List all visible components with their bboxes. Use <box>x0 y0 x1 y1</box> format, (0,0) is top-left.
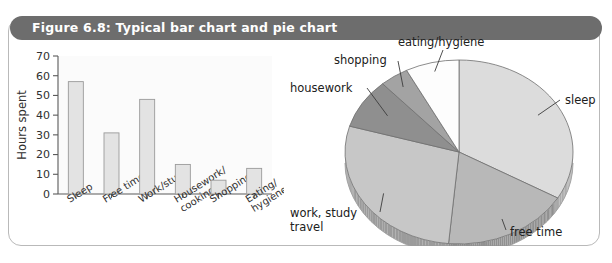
plot-background <box>58 56 272 194</box>
pie-slice-side <box>407 234 410 246</box>
pie-slice-label: shopping <box>334 53 387 67</box>
pie-slice-side <box>498 238 500 246</box>
pie-slice-label: work, studytravel <box>290 206 357 234</box>
pie-slice-side <box>547 210 548 222</box>
bar-chart: 010203040506070Hours spentSleepFree time… <box>14 46 284 246</box>
y-axis-tick-label: 50 <box>36 89 50 102</box>
pie-slice-side <box>551 205 552 217</box>
y-axis-tick-label: 60 <box>36 70 50 83</box>
pie-slice-side <box>416 237 419 246</box>
y-axis-tick-label: 40 <box>36 109 50 122</box>
pie-slice-side <box>404 233 407 245</box>
pie-chart: sleepfree timework, studytravelhousework… <box>288 30 606 246</box>
y-axis-tick-label: 70 <box>36 50 50 63</box>
y-axis-tick-label: 0 <box>43 188 50 201</box>
y-axis-tick-label: 30 <box>36 129 50 142</box>
pie-slice-side <box>542 214 543 226</box>
pie-slice-side <box>548 208 549 220</box>
pie-slice-side <box>506 235 508 246</box>
pie-slice-side <box>500 237 502 246</box>
pie-slice-side <box>491 240 493 246</box>
bar <box>68 82 83 194</box>
pie-chart-svg: sleepfree timework, studytravelhousework… <box>288 30 606 246</box>
pie-slice-side <box>502 237 504 246</box>
y-axis-tick-label: 20 <box>36 148 50 161</box>
pie-slice-side <box>413 236 416 246</box>
bar-chart-svg: 010203040506070Hours spentSleepFree time… <box>14 46 284 246</box>
pie-slice-label: eating/hygiene <box>398 35 484 49</box>
pie-slice-side <box>410 235 413 246</box>
pie-slice-side <box>549 207 550 219</box>
pie-slice-side <box>545 211 546 223</box>
y-axis-title: Hours spent <box>15 90 29 160</box>
bar <box>140 99 155 194</box>
pie-slice-side <box>495 239 497 246</box>
pie-slice-label: housework <box>290 81 353 95</box>
pie-slice-side <box>544 212 545 224</box>
pie-slice-side <box>401 231 404 243</box>
pie-slice-side <box>395 228 398 240</box>
y-axis-tick-label: 10 <box>36 168 50 181</box>
figure-container: Figure 6.8: Typical bar chart and pie ch… <box>0 0 612 263</box>
pie-slice-side <box>390 225 393 238</box>
pie-slice-label: sleep <box>565 93 596 107</box>
pie-slice-side <box>393 227 396 240</box>
pie-slice-label: free time <box>510 225 562 239</box>
pie-slice-side <box>493 239 495 246</box>
pie-slice-side <box>504 236 506 246</box>
pie-slice-side <box>398 230 401 242</box>
